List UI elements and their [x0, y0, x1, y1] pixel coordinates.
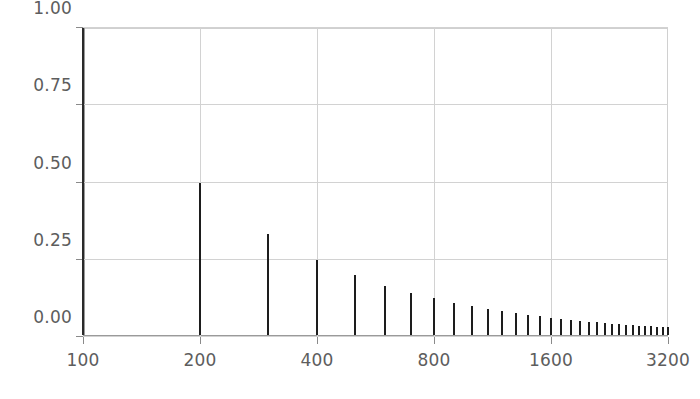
harmonic-stem — [199, 183, 201, 336]
harmonic-stem — [316, 260, 318, 335]
harmonic-stem — [650, 326, 652, 335]
harmonic-stem — [644, 326, 646, 335]
harmonic-stem — [515, 313, 517, 335]
harmonic-stem — [433, 298, 435, 335]
harmonic-stem — [527, 315, 529, 335]
gridline-vertical — [434, 28, 435, 337]
harmonic-stem — [604, 323, 606, 335]
gridline-horizontal — [83, 259, 668, 260]
harmonic-stem — [82, 28, 84, 335]
y-tick-label: 0.75 — [33, 75, 72, 95]
harmonic-stem — [354, 275, 356, 335]
harmonic-stem — [579, 321, 581, 335]
gridline-horizontal — [83, 336, 668, 337]
plot-area: 1.000.750.500.250.00 1002004008001600320… — [83, 28, 668, 337]
harmonic-stem — [487, 309, 489, 335]
gridline-horizontal — [83, 182, 668, 183]
x-tick-mark — [551, 337, 552, 344]
x-tick-label: 400 — [300, 350, 333, 370]
harmonic-stem — [267, 234, 269, 335]
harmonic-stem — [501, 311, 503, 335]
x-tick-mark — [317, 337, 318, 344]
harmonic-stem — [611, 324, 613, 335]
spectrum-chart-figure: 1.000.750.500.250.00 1002004008001600320… — [0, 0, 700, 399]
harmonic-stem — [618, 324, 620, 335]
x-tick-label: 1600 — [529, 350, 573, 370]
harmonic-stem — [656, 327, 658, 335]
harmonic-stem — [560, 319, 562, 335]
harmonic-stem — [625, 325, 627, 335]
gridline-horizontal — [83, 104, 668, 105]
y-tick-label: 1.00 — [33, 0, 72, 18]
harmonic-stem — [638, 326, 640, 335]
harmonic-stem — [588, 322, 590, 335]
harmonic-stem — [471, 306, 473, 335]
harmonic-stem — [550, 318, 552, 335]
harmonic-stem — [596, 322, 598, 335]
harmonic-stem — [453, 303, 455, 335]
x-tick-mark — [668, 337, 669, 344]
harmonic-stem — [667, 327, 669, 335]
x-tick-label: 800 — [417, 350, 450, 370]
harmonic-stem — [570, 320, 572, 335]
x-tick-label: 100 — [66, 350, 99, 370]
x-tick-mark — [200, 337, 201, 344]
x-tick-mark — [83, 337, 84, 344]
gridline-horizontal — [83, 27, 668, 28]
y-tick-label: 0.50 — [33, 153, 72, 173]
y-tick-mark — [76, 336, 83, 337]
x-tick-label: 3200 — [646, 350, 690, 370]
y-tick-label: 0.25 — [33, 230, 72, 250]
plot-frame — [83, 28, 668, 337]
x-tick-label: 200 — [183, 350, 216, 370]
harmonic-stem — [410, 293, 412, 335]
x-tick-mark — [434, 337, 435, 344]
harmonic-stem — [539, 316, 541, 335]
harmonic-stem — [662, 327, 664, 335]
y-tick-label: 0.00 — [33, 307, 72, 327]
gridline-vertical — [551, 28, 552, 337]
harmonic-stem — [384, 286, 386, 336]
harmonic-stem — [632, 325, 634, 335]
